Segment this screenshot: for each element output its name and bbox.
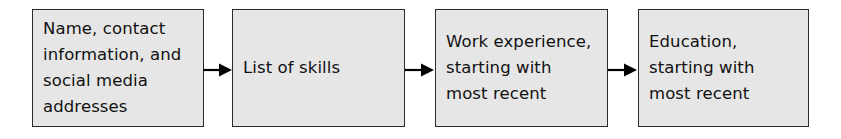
flow-node-3: Work experience, starting with most rece… [435, 9, 608, 127]
arrow-right-icon-3 [608, 62, 637, 78]
flow-node-1-label: Name, contact information, and social me… [33, 16, 187, 120]
flow-node-2: List of skills [232, 9, 405, 127]
flowchart-diagram: Name, contact information, and social me… [0, 0, 841, 139]
flow-node-4: Education, starting with most recent [638, 9, 809, 127]
flow-node-1: Name, contact information, and social me… [32, 9, 204, 127]
flow-node-2-label: List of skills [233, 55, 346, 81]
flow-node-3-label: Work experience, starting with most rece… [436, 29, 597, 107]
arrow-right-icon-2 [405, 62, 434, 78]
arrow-right-icon-1 [203, 62, 232, 78]
flow-node-4-label: Education, starting with most recent [639, 29, 761, 107]
